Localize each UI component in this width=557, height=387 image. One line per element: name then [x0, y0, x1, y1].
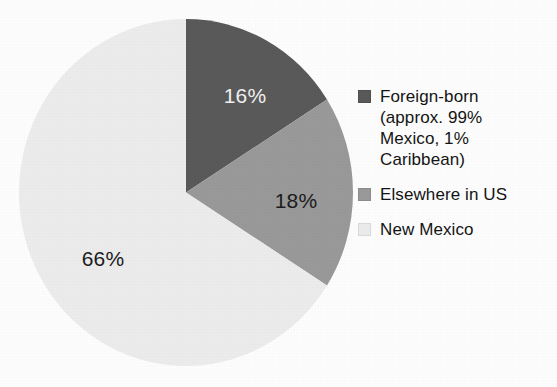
slice-value-label-new-mexico: 66%	[82, 247, 125, 271]
legend-label-foreign-born: Foreign-born (approx. 99% Mexico, 1% Car…	[380, 86, 482, 170]
slice-value-label-foreign-born: 16%	[224, 84, 267, 108]
legend-label-elsewhere: Elsewhere in US	[380, 184, 507, 205]
legend-label-new-mexico: New Mexico	[380, 219, 474, 240]
slice-value-label-elsewhere: 18%	[275, 189, 318, 213]
legend-swatch-icon-new-mexico	[358, 223, 371, 236]
legend-swatch-icon-foreign-born	[358, 90, 371, 103]
legend-item-foreign-born[interactable]: Foreign-born (approx. 99% Mexico, 1% Car…	[358, 86, 554, 170]
legend-swatch-icon-elsewhere	[358, 188, 371, 201]
chart-legend: Foreign-born (approx. 99% Mexico, 1% Car…	[358, 86, 554, 240]
legend-item-new-mexico[interactable]: New Mexico	[358, 219, 554, 240]
legend-item-elsewhere[interactable]: Elsewhere in US	[358, 184, 554, 205]
pie-chart-figure: 16% 18% 66% Foreign-born (approx. 99% Me…	[0, 0, 557, 387]
